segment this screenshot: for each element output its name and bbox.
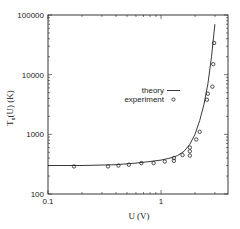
experiment-point bbox=[195, 138, 198, 141]
plot-border bbox=[48, 15, 228, 194]
experiment-point bbox=[211, 85, 214, 88]
y-axis-label-rest: (U) (K) bbox=[5, 90, 15, 117]
y-tick-label: 1000 bbox=[26, 130, 44, 139]
experiment-point bbox=[181, 153, 184, 156]
experiment-point bbox=[198, 130, 201, 133]
legend-theory-label: theory bbox=[142, 86, 164, 95]
legend: theory experiment bbox=[124, 86, 180, 104]
experiment-series bbox=[72, 41, 215, 168]
svg-text:Tn(U) (K): Tn(U) (K) bbox=[5, 90, 16, 126]
experiment-point bbox=[212, 62, 215, 65]
legend-experiment-label: experiment bbox=[124, 95, 164, 104]
plot-frame bbox=[48, 15, 228, 194]
legend-experiment-marker-icon bbox=[172, 98, 175, 101]
y-tick-label: 10000 bbox=[22, 71, 45, 80]
experiment-point bbox=[206, 92, 209, 95]
axis-ticks bbox=[48, 15, 228, 194]
y-axis-label: Tn(U) (K) bbox=[5, 90, 16, 126]
experiment-point bbox=[163, 160, 166, 163]
experiment-point bbox=[205, 98, 208, 101]
experiment-point bbox=[188, 150, 191, 153]
chart: 0.11100100010000100000 theory experiment… bbox=[0, 0, 240, 229]
experiment-point bbox=[152, 161, 155, 164]
y-tick-label: 100 bbox=[31, 190, 45, 199]
experiment-point bbox=[188, 146, 191, 149]
x-axis-label: U (V) bbox=[128, 211, 149, 221]
experiment-point bbox=[188, 154, 191, 157]
x-tick-label: 1 bbox=[159, 197, 164, 206]
axis-tick-labels: 0.11100100010000100000 bbox=[17, 11, 163, 206]
x-tick-label: 0.1 bbox=[42, 197, 54, 206]
y-tick-label: 100000 bbox=[17, 11, 44, 20]
